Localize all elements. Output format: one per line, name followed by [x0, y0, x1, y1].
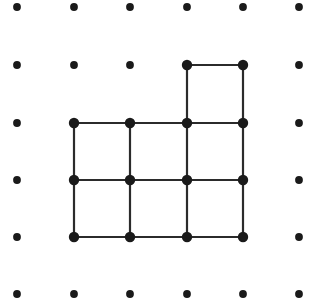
shape-vertex-dot-c4-r4[interactable]	[238, 232, 248, 242]
shape-vertex-dot-c1-r2[interactable]	[69, 118, 79, 128]
lattice-dot-c0-r2[interactable]	[13, 119, 21, 127]
lattice-dot-c5-r4[interactable]	[295, 233, 303, 241]
lattice-dot-c0-r3[interactable]	[13, 176, 21, 184]
lattice-dot-c1-r5[interactable]	[70, 290, 78, 298]
lattice-dot-c5-r2[interactable]	[295, 119, 303, 127]
shape-vertex-dot-c3-r2[interactable]	[182, 118, 192, 128]
lattice-dot-c0-r5[interactable]	[13, 290, 21, 298]
lattice-dot-c2-r5[interactable]	[126, 290, 134, 298]
lattice-dot-c0-r0[interactable]	[13, 3, 21, 11]
lattice-dot-c3-r0[interactable]	[183, 3, 191, 11]
shape-vertex-dot-c1-r4[interactable]	[69, 232, 79, 242]
lattice-dot-c2-r0[interactable]	[126, 3, 134, 11]
lattice-dot-c1-r1[interactable]	[70, 61, 78, 69]
lattice-dot-c5-r3[interactable]	[295, 176, 303, 184]
dot-grid-polyomino-figure	[0, 0, 322, 299]
shape-vertex-dot-c4-r1[interactable]	[238, 60, 248, 70]
figure-background	[0, 0, 322, 299]
lattice-dot-c1-r0[interactable]	[70, 3, 78, 11]
lattice-dot-c4-r5[interactable]	[239, 290, 247, 298]
lattice-dot-c0-r4[interactable]	[13, 233, 21, 241]
lattice-dot-c5-r1[interactable]	[295, 61, 303, 69]
shape-vertex-dot-c3-r1[interactable]	[182, 60, 192, 70]
lattice-dot-c0-r1[interactable]	[13, 61, 21, 69]
shape-vertex-dot-c3-r4[interactable]	[182, 232, 192, 242]
shape-vertex-dot-c3-r3[interactable]	[182, 175, 192, 185]
shape-vertex-dot-c2-r3[interactable]	[125, 175, 135, 185]
lattice-dot-c3-r5[interactable]	[183, 290, 191, 298]
shape-vertex-dot-c4-r3[interactable]	[238, 175, 248, 185]
lattice-dot-c2-r1[interactable]	[126, 61, 134, 69]
shape-vertex-dot-c2-r4[interactable]	[125, 232, 135, 242]
lattice-dot-c5-r0[interactable]	[295, 3, 303, 11]
lattice-dot-c4-r0[interactable]	[239, 3, 247, 11]
shape-vertex-dot-c2-r2[interactable]	[125, 118, 135, 128]
shape-vertex-dot-c1-r3[interactable]	[69, 175, 79, 185]
shape-vertex-dot-c4-r2[interactable]	[238, 118, 248, 128]
lattice-dot-c5-r5[interactable]	[295, 290, 303, 298]
figure-canvas	[0, 0, 322, 299]
